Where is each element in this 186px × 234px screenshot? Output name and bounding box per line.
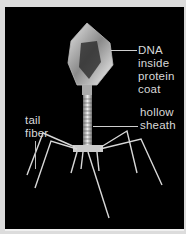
diagram-panel: DNA inside protein coat hollow sheath ta… (5, 7, 184, 229)
tail-fibers-icon (27, 131, 162, 218)
sheath-leader-line (93, 126, 138, 127)
dna-leader-line (111, 50, 137, 51)
tail-fiber-leader-line (35, 141, 36, 169)
tail-fiber-label: tail fiber (25, 114, 48, 140)
sheath-label: hollow sheath (140, 106, 176, 132)
bottom-rule (5, 229, 184, 231)
capsid-head-icon (68, 23, 113, 85)
dna-label: DNA inside protein coat (138, 44, 175, 96)
